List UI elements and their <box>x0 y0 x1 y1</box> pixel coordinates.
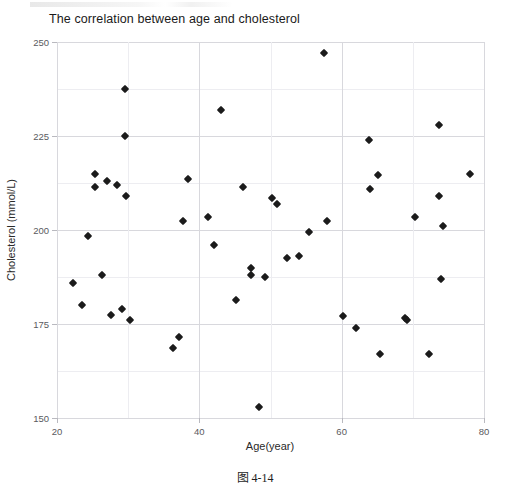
chart-title: The correlation between age and choleste… <box>49 12 300 26</box>
scatter-point <box>339 312 347 320</box>
y-tick-label: 250 <box>33 37 49 48</box>
scatter-point <box>246 271 254 279</box>
scatter-point <box>436 275 444 283</box>
y-tick-mark <box>52 136 57 137</box>
scatter-point <box>68 278 76 286</box>
scatter-point <box>305 228 313 236</box>
scatter-point <box>320 49 328 57</box>
x-tick-label: 60 <box>336 426 347 437</box>
scatter-point <box>273 199 281 207</box>
gridline-vertical-major <box>57 42 58 418</box>
gridline-horizontal-major <box>57 418 484 419</box>
y-tick-mark <box>52 42 57 43</box>
x-tick-label: 40 <box>194 426 205 437</box>
scatter-point <box>374 171 382 179</box>
y-tick-label: 150 <box>33 413 49 424</box>
scatter-point <box>175 333 183 341</box>
gridline-vertical-minor <box>271 42 272 418</box>
x-tick-mark <box>57 418 58 423</box>
scatter-point <box>118 305 126 313</box>
scatter-point <box>366 184 374 192</box>
scatter-point <box>204 213 212 221</box>
y-tick-mark <box>52 230 57 231</box>
scatter-point <box>435 192 443 200</box>
scan-artifact <box>30 2 290 7</box>
scatter-point <box>83 231 91 239</box>
scatter-point <box>78 301 86 309</box>
scatter-point <box>435 120 443 128</box>
x-tick-label: 20 <box>52 426 63 437</box>
figure-container: The correlation between age and choleste… <box>0 0 510 498</box>
scatter-point <box>91 169 99 177</box>
scatter-point <box>216 105 224 113</box>
plot-area: 15017520022525020406080 <box>57 42 484 418</box>
gridline-vertical-minor <box>128 42 129 418</box>
scatter-point <box>261 273 269 281</box>
x-tick-label: 80 <box>479 426 490 437</box>
y-tick-label: 175 <box>33 319 49 330</box>
scatter-point <box>209 241 217 249</box>
y-tick-mark <box>52 324 57 325</box>
gridline-vertical-major <box>199 42 200 418</box>
x-tick-mark <box>199 418 200 423</box>
scatter-point <box>255 402 263 410</box>
scatter-point <box>283 254 291 262</box>
x-tick-mark <box>342 418 343 423</box>
scatter-point <box>169 344 177 352</box>
scatter-point <box>103 177 111 185</box>
y-axis-title: Cholesterol (mmol/L) <box>5 179 17 281</box>
scatter-point <box>323 216 331 224</box>
scatter-point <box>425 350 433 358</box>
scatter-point <box>107 310 115 318</box>
scatter-point <box>466 169 474 177</box>
scatter-point <box>232 295 240 303</box>
scatter-point <box>113 181 121 189</box>
y-tick-label: 225 <box>33 131 49 142</box>
scatter-point <box>179 216 187 224</box>
gridline-vertical-minor <box>413 42 414 418</box>
scatter-point <box>376 350 384 358</box>
y-tick-label: 200 <box>33 225 49 236</box>
scatter-point <box>98 271 106 279</box>
gridline-vertical-major <box>484 42 485 418</box>
x-tick-mark <box>484 418 485 423</box>
scatter-point <box>295 252 303 260</box>
gridline-vertical-major <box>342 42 343 418</box>
x-axis-title: Age(year) <box>246 440 294 452</box>
figure-caption: 图 4-14 <box>237 468 274 486</box>
